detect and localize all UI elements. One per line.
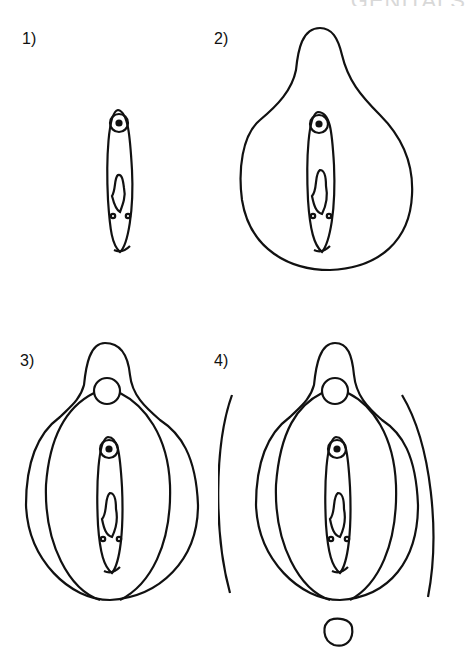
step-1-label: 1) — [22, 30, 36, 48]
cropped-header-text: GENITALS — [0, 0, 476, 6]
step-4-drawing — [218, 335, 476, 655]
header-fragment: GENITALS — [351, 0, 466, 6]
step-1-drawing — [90, 100, 150, 260]
step-2-label: 2) — [214, 30, 228, 48]
step-2-drawing — [230, 20, 430, 280]
step-3-drawing — [20, 335, 210, 605]
